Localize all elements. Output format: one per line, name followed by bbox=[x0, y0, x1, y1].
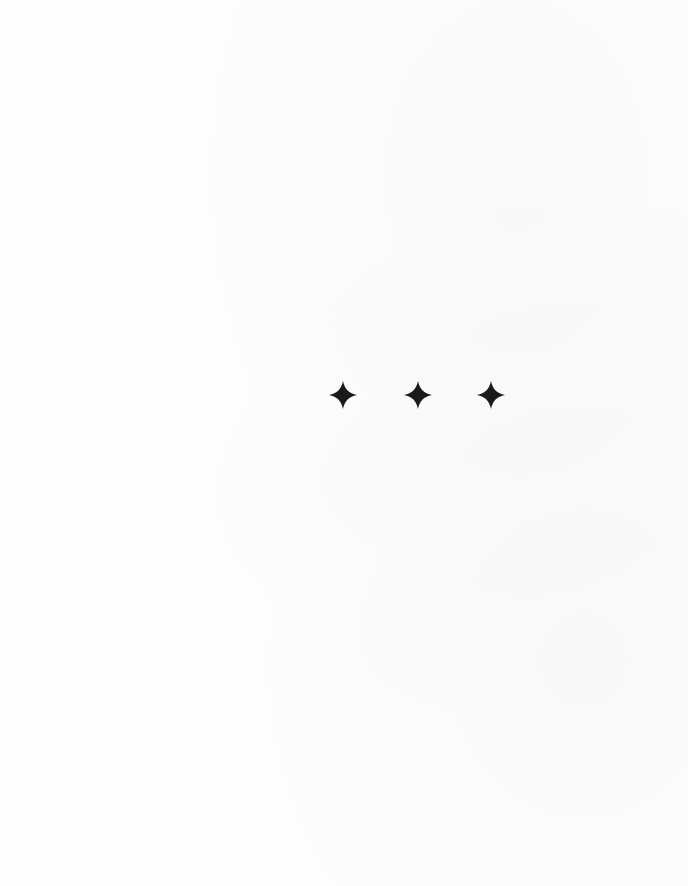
four-point-star-icon bbox=[328, 380, 358, 410]
section-break-dinkus bbox=[0, 380, 688, 412]
page bbox=[0, 0, 688, 886]
four-point-star-icon bbox=[403, 380, 433, 410]
four-point-star-icon bbox=[476, 380, 506, 410]
